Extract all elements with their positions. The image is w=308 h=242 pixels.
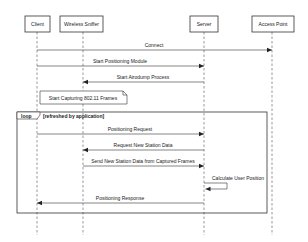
note-start-capturing: Start Capturing 802.11 Frames xyxy=(40,91,127,104)
message-label: Start Airodump Process xyxy=(117,74,170,80)
participant-label: Server xyxy=(197,21,212,27)
loop-keyword: loop xyxy=(21,113,32,119)
message-label: Positioning Response xyxy=(96,195,145,201)
lifelines xyxy=(37,32,272,235)
participant-client: Client xyxy=(25,16,50,32)
message-label: Positioning Request xyxy=(108,126,153,132)
message-send-new-station-data: Send New Station Data from Captured Fram… xyxy=(83,158,204,166)
message-positioning-response: Positioning Response xyxy=(37,195,204,203)
message-start-positioning-module: Start Positioning Module xyxy=(37,58,204,66)
participant-wireless-sniffer: Wireless Sniffer xyxy=(60,16,103,32)
self-call-label: Calculate User Position xyxy=(212,175,264,181)
message-request-new-station-data: Request New Station Data xyxy=(83,142,204,150)
sequence-diagram: Client Wireless Sniffer Server Access Po… xyxy=(0,0,308,242)
message-label: Request New Station Data xyxy=(114,142,173,148)
participant-label: Wireless Sniffer xyxy=(64,21,99,27)
participant-label: Access Point xyxy=(259,21,289,27)
participant-server: Server xyxy=(190,16,218,32)
message-connect: Connect xyxy=(37,42,272,50)
participant-access-point: Access Point xyxy=(252,16,294,32)
self-call-calculate-user-position: Calculate User Position xyxy=(204,175,264,189)
loop-guard: [refreshed by application] xyxy=(43,113,104,119)
note-text: Start Capturing 802.11 Frames xyxy=(49,95,118,101)
message-label: Connect xyxy=(145,42,164,48)
message-label: Start Positioning Module xyxy=(93,58,147,64)
message-label: Send New Station Data from Captured Fram… xyxy=(91,158,195,164)
participant-label: Client xyxy=(31,21,44,27)
message-start-airodump-process: Start Airodump Process xyxy=(83,74,204,82)
message-positioning-request: Positioning Request xyxy=(37,126,204,134)
